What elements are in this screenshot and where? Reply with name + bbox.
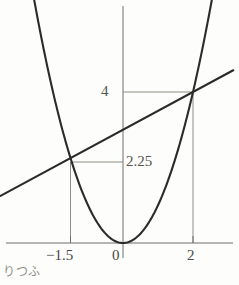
math-graph-figure: −1.5 0 2 4 2.25 りつふ bbox=[0, 0, 239, 285]
x-tick-label-zero: 0 bbox=[112, 248, 120, 263]
figure-caption: りつふ bbox=[3, 266, 41, 278]
x-tick-label-two: 2 bbox=[187, 248, 195, 263]
plot-canvas bbox=[0, 0, 239, 285]
y-value-label-two-point-two-five: 2.25 bbox=[126, 154, 152, 169]
y-value-label-four: 4 bbox=[101, 84, 109, 99]
x-tick-label-neg15: −1.5 bbox=[46, 248, 73, 263]
line-curve bbox=[1, 70, 234, 196]
parabola-curve bbox=[30, 0, 212, 243]
